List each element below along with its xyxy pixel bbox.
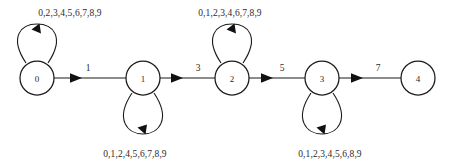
self-loop-label: 0,1,2,3,4,6,7,8,9 — [198, 8, 262, 18]
self-loop-label: 0,2,3,4,5,6,7,8,9 — [38, 8, 102, 18]
state-node-q0[interactable]: 0 — [20, 61, 54, 95]
state-node-q1[interactable]: 1 — [126, 61, 160, 95]
automaton-diagram: 1 3 5 7 0,2,3 — [0, 0, 459, 166]
arrow-head-icon — [351, 73, 363, 83]
transition-label: 1 — [86, 63, 91, 73]
self-loop-label: 0,1,2,4,5,6,7,8,9 — [103, 149, 167, 159]
arrow-head-icon — [70, 73, 82, 83]
state-label: 0 — [35, 74, 40, 84]
arrow-head-icon — [261, 73, 273, 83]
self-loop-q1[interactable]: 0,1,2,4,5,6,7,8,9 — [103, 93, 167, 159]
self-loop-q0[interactable]: 0,2,3,4,5,6,7,8,9 — [18, 8, 102, 63]
transition-q0-q1[interactable]: 1 — [54, 63, 126, 83]
arrow-head-icon — [32, 24, 42, 34]
transition-label: 7 — [376, 63, 381, 73]
self-loop-label: 0,1,2,3,4,5,6,8,9 — [298, 149, 362, 159]
state-label: 1 — [141, 74, 146, 84]
transition-q1-q2[interactable]: 3 — [160, 63, 215, 83]
arrow-head-icon — [171, 73, 183, 83]
transition-q3-q4[interactable]: 7 — [339, 63, 401, 83]
state-node-q4[interactable]: 4 — [401, 61, 435, 95]
self-loop-q3[interactable]: 0,1,2,3,4,5,6,8,9 — [298, 93, 362, 159]
state-node-q2[interactable]: 2 — [215, 61, 249, 95]
state-label: 2 — [230, 74, 235, 84]
self-loop-q2[interactable]: 0,1,2,3,4,6,7,8,9 — [198, 8, 262, 63]
arrow-head-icon — [227, 24, 237, 34]
state-label: 4 — [416, 74, 421, 84]
transition-q2-q3[interactable]: 5 — [249, 63, 305, 83]
transition-label: 3 — [196, 63, 201, 73]
automaton-canvas: 1 3 5 7 0,2,3 — [0, 0, 459, 166]
state-label: 3 — [320, 74, 325, 84]
arrow-head-icon — [138, 125, 148, 135]
arrow-head-icon — [317, 125, 327, 135]
state-node-q3[interactable]: 3 — [305, 61, 339, 95]
transition-label: 5 — [280, 63, 285, 73]
